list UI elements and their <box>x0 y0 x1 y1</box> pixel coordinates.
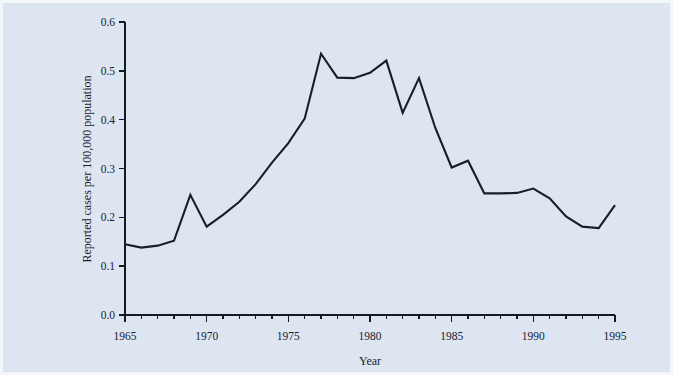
y-tick-label: 0.6 <box>101 16 116 28</box>
axis-spines <box>125 22 615 315</box>
x-tick-label: 1980 <box>359 330 382 342</box>
tick-marks-group <box>119 22 615 322</box>
y-tick-label: 0.4 <box>101 114 116 126</box>
y-tick-label: 0.3 <box>101 163 116 175</box>
y-axis-title: Reported cases per 100,000 population <box>80 76 94 263</box>
figure-panel: 0.00.10.20.30.40.50.61965197019751980198… <box>0 0 673 375</box>
x-tick-label: 1970 <box>195 330 218 342</box>
x-tick-label: 1990 <box>522 330 545 342</box>
tick-labels-group: 0.00.10.20.30.40.50.61965197019751980198… <box>101 16 627 342</box>
x-tick-label: 1985 <box>440 330 463 342</box>
x-axis-title: Year <box>359 354 381 368</box>
y-tick-label: 0.0 <box>101 309 116 321</box>
axes-group <box>125 22 615 315</box>
y-tick-label: 0.1 <box>101 260 116 272</box>
data-series-group <box>125 54 615 248</box>
chart-canvas: 0.00.10.20.30.40.50.61965197019751980198… <box>3 3 673 375</box>
y-tick-label: 0.5 <box>101 65 116 77</box>
data-line-series <box>125 54 615 248</box>
y-tick-label: 0.2 <box>101 211 116 223</box>
x-tick-label: 1975 <box>277 330 300 342</box>
x-tick-label: 1965 <box>114 330 137 342</box>
x-tick-label: 1995 <box>604 330 627 342</box>
